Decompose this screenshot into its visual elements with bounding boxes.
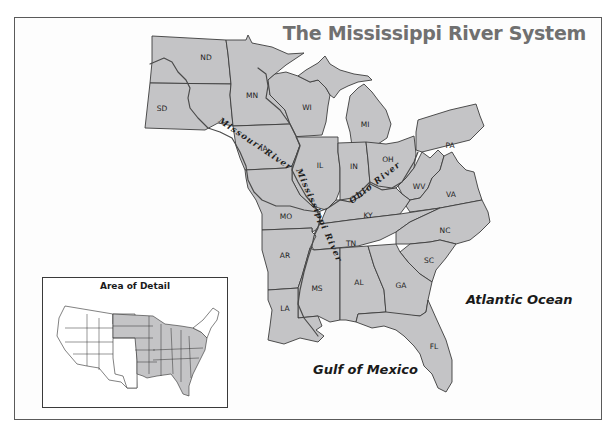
label-wv: WV bbox=[413, 182, 426, 191]
label-nd: ND bbox=[200, 53, 212, 62]
label-sd: SD bbox=[157, 104, 168, 113]
gulf-of-mexico-label: Gulf of Mexico bbox=[313, 362, 418, 377]
label-la: LA bbox=[280, 304, 290, 313]
label-ia: IA bbox=[260, 144, 268, 153]
label-fl: FL bbox=[430, 342, 439, 351]
state-nd bbox=[150, 36, 231, 84]
label-ky: KY bbox=[363, 211, 373, 220]
label-ar: AR bbox=[280, 251, 290, 260]
label-al: AL bbox=[354, 278, 364, 287]
map-title: The Mississippi River System bbox=[283, 22, 586, 44]
label-sc: SC bbox=[424, 256, 434, 265]
label-mi: MI bbox=[361, 120, 370, 129]
label-in: IN bbox=[350, 162, 358, 171]
label-ms: MS bbox=[311, 284, 322, 293]
label-pa: PA bbox=[445, 141, 455, 150]
label-nc: NC bbox=[440, 226, 451, 235]
state-mi-lp bbox=[346, 84, 391, 146]
atlantic-ocean-label: Atlantic Ocean bbox=[466, 292, 573, 307]
label-mo: MO bbox=[280, 212, 292, 221]
us-locator-map bbox=[43, 278, 229, 409]
label-tn: TN bbox=[345, 239, 356, 248]
label-ga: GA bbox=[396, 281, 408, 290]
area-of-detail-inset: Area of Detail bbox=[42, 277, 228, 408]
label-oh: OH bbox=[382, 155, 394, 164]
label-mn: MN bbox=[246, 91, 258, 100]
label-va: VA bbox=[446, 190, 457, 199]
label-wi: WI bbox=[302, 103, 312, 112]
label-il: IL bbox=[317, 161, 324, 170]
